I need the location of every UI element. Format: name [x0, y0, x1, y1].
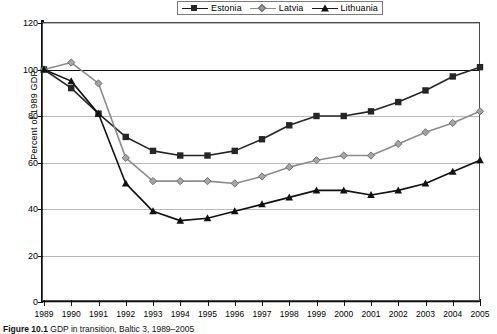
x-tick-label: 1995 — [198, 309, 217, 319]
y-tick-label: 100 — [23, 65, 38, 74]
data-point — [231, 180, 238, 187]
data-point — [286, 164, 293, 171]
x-tick-label: 2004 — [443, 309, 462, 319]
chart-legend: Estonia Latvia Lithuania — [177, 1, 383, 15]
x-tick-label: 1990 — [62, 309, 81, 319]
x-tick-label: 1993 — [144, 309, 163, 319]
series-line — [44, 70, 480, 221]
figure-number: Figure 10.1 — [3, 324, 48, 334]
x-tick-label: 1992 — [116, 309, 135, 319]
data-point — [68, 85, 74, 91]
data-point — [313, 157, 320, 164]
triangle-marker-icon — [321, 5, 329, 12]
x-tick-label: 2000 — [334, 309, 353, 319]
legend-line-latvia — [250, 8, 276, 9]
data-point — [395, 140, 402, 147]
data-point — [395, 99, 401, 105]
data-point — [368, 108, 374, 114]
data-point — [259, 136, 265, 142]
y-tick-label: 60 — [28, 158, 38, 167]
legend-label-latvia: Latvia — [279, 3, 304, 13]
x-tick-label: 1996 — [225, 309, 244, 319]
data-point — [422, 129, 429, 136]
data-point — [341, 113, 347, 119]
data-point — [123, 134, 129, 140]
x-tick-label: 1994 — [171, 309, 190, 319]
data-point — [340, 152, 347, 159]
x-tick-label: 1989 — [35, 309, 54, 319]
data-point — [313, 113, 319, 119]
data-point — [177, 178, 184, 185]
data-point — [177, 152, 183, 158]
data-point — [286, 122, 292, 128]
data-point — [232, 148, 238, 154]
diamond-marker-icon — [258, 4, 266, 12]
x-tick-label: 2002 — [389, 309, 408, 319]
legend-line-lithuania — [312, 8, 338, 9]
x-tick-label: 1997 — [253, 309, 272, 319]
plot-area: 020406080100120 198919901991199219931994… — [42, 22, 480, 301]
x-tick-label: 1998 — [280, 309, 299, 319]
data-point — [450, 73, 456, 79]
data-point — [477, 64, 483, 70]
data-point — [258, 173, 265, 180]
data-point — [122, 179, 130, 186]
y-tick-label: 120 — [23, 19, 38, 28]
series-latvia — [40, 59, 483, 187]
x-tick-label: 2005 — [471, 309, 490, 319]
series-lithuania — [40, 66, 484, 224]
legend-label-lithuania: Lithuania — [341, 3, 378, 13]
series-estonia — [41, 64, 483, 159]
y-tick-label: 80 — [28, 112, 38, 121]
data-point — [367, 152, 374, 159]
legend-item-latvia: Latvia — [250, 3, 304, 13]
x-tick-label: 2003 — [416, 309, 435, 319]
data-point — [204, 178, 211, 185]
data-point — [476, 108, 483, 115]
y-tick-label: 40 — [28, 205, 38, 214]
data-point — [476, 156, 484, 163]
legend-line-estonia — [182, 8, 208, 9]
gridline — [43, 302, 479, 303]
figure-container: Estonia Latvia Lithuania Percent of 1989… — [0, 0, 497, 334]
legend-item-lithuania: Lithuania — [312, 3, 378, 13]
y-tick-label: 20 — [28, 251, 38, 260]
data-point — [150, 148, 156, 154]
y-tick-mark — [38, 302, 43, 303]
legend-item-estonia: Estonia — [182, 3, 242, 13]
figure-caption: Figure 10.1 GDP in transition, Baltic 3,… — [3, 324, 194, 334]
square-marker-icon — [191, 5, 197, 11]
data-point — [422, 87, 428, 93]
legend-label-estonia: Estonia — [211, 3, 242, 13]
x-tick-label: 1991 — [89, 309, 108, 319]
data-point — [204, 152, 210, 158]
figure-caption-text: GDP in transition, Baltic 3, 1989–2005 — [50, 324, 194, 334]
x-tick-label: 2001 — [362, 309, 381, 319]
x-tick-label: 1999 — [307, 309, 326, 319]
series-layer — [43, 23, 481, 302]
data-point — [449, 119, 456, 126]
